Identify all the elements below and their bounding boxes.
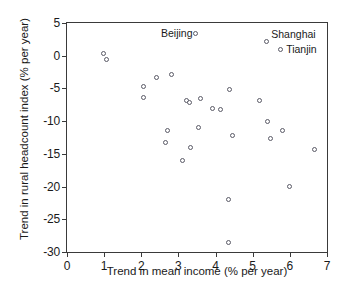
data-point [169,72,174,77]
y-axis-tick-label: -15 [43,147,60,161]
plot-area: 50-5-10-15-20-25-3001234567BeijingShangh… [66,22,328,253]
data-point [198,96,203,101]
x-axis-label: Trend in mean income (% per year) [66,265,328,277]
y-axis-tick [62,56,67,57]
x-axis-tick [253,252,254,257]
data-point [187,100,192,105]
data-point [188,145,193,150]
annotation-shanghai: Shanghai [271,28,315,40]
y-axis-tick [62,23,67,24]
x-axis-tick [290,252,291,257]
data-point [226,197,231,202]
y-axis-tick [62,154,67,155]
y-axis-tick-label: -20 [43,180,60,194]
data-point-tianjin [278,47,283,52]
data-point [165,128,170,133]
data-point [210,106,215,111]
x-axis-tick [104,252,105,257]
data-point-beijing [193,31,198,36]
data-point [141,84,146,89]
data-point [268,136,273,141]
x-axis-tick [327,252,328,257]
data-point [196,125,201,130]
data-point [265,119,270,124]
data-point [312,147,317,152]
data-point [230,133,235,138]
data-point [257,98,262,103]
y-axis-tick-label: -5 [50,81,60,95]
scatter-chart-figure: 50-5-10-15-20-25-3001234567BeijingShangh… [0,0,344,287]
data-point [226,240,231,245]
data-point [287,184,292,189]
annotation-tianjin: Tianjin [286,43,317,55]
y-axis-tick [62,88,67,89]
data-point [180,158,185,163]
y-axis-tick [62,187,67,188]
annotation-beijing: Beijing [161,27,193,39]
y-axis-tick-label: 0 [54,49,60,63]
y-axis-label: Trend in rural headcount index (% per ye… [18,20,30,240]
data-point [218,107,223,112]
data-point [154,75,159,80]
x-axis-tick [178,252,179,257]
data-point [163,140,168,145]
y-axis-tick [62,219,67,220]
y-axis-tick [62,121,67,122]
data-point [280,128,285,133]
x-axis-tick [67,252,68,257]
y-axis-tick-label: -10 [43,114,60,128]
y-axis-tick-label: -30 [43,245,60,259]
x-axis-tick [216,252,217,257]
data-point-shanghai [264,39,269,44]
y-axis-tick-label: -25 [43,212,60,226]
data-point [104,57,109,62]
data-point [141,95,146,100]
y-axis-tick-label: 5 [54,16,60,30]
x-axis-tick [141,252,142,257]
data-point [101,51,106,56]
data-point [227,87,232,92]
